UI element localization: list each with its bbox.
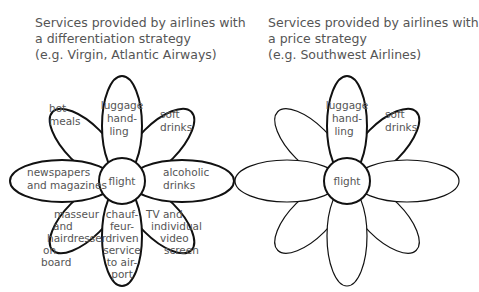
petal-label: and: [53, 220, 73, 232]
petal-label: hairdresser: [47, 232, 107, 244]
petal-label: screen: [164, 244, 199, 256]
petal-label: port: [111, 268, 133, 280]
petal-label: hot: [49, 102, 66, 114]
petal-label: drinks: [163, 179, 195, 191]
petal-label: luggage: [101, 99, 143, 111]
petal-label: soft: [160, 108, 180, 120]
petal-label: drinks: [385, 121, 417, 133]
petal-label: masseur: [54, 208, 100, 220]
petal-label: luggage: [326, 99, 368, 111]
petal-label: TV and: [145, 208, 183, 220]
petal-label: alcoholic: [163, 166, 209, 178]
petal-label: chauf-: [106, 208, 139, 220]
petal-label: video: [160, 232, 189, 244]
petal-label: soft: [385, 108, 405, 120]
petal-label: ling: [334, 125, 353, 137]
petal-label: drinks: [160, 121, 192, 133]
center-label: flight: [334, 175, 361, 187]
petal-label: on: [43, 244, 56, 256]
petal-label: feur-: [110, 220, 134, 232]
petal-label: service: [103, 244, 141, 256]
petal-label: ling: [109, 125, 128, 137]
petal-label: newspapers: [27, 166, 90, 178]
petal-label: board: [41, 256, 71, 268]
petal-label: hand-: [332, 112, 362, 124]
petal-label: hand-: [107, 112, 137, 124]
petal-label: and magazines: [27, 179, 107, 191]
petal-label: driven: [105, 232, 138, 244]
petal-label: meals: [49, 115, 81, 127]
center-label: flight: [109, 175, 136, 187]
petal-label: to air-: [107, 256, 138, 268]
petal-label: individual: [151, 220, 202, 232]
